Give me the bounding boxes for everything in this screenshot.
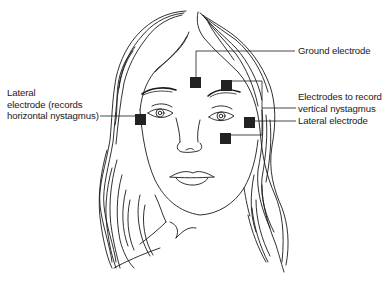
label-ground-electrode: Ground electrode	[298, 45, 371, 57]
label-vertical-line1: Electrodes to record	[298, 91, 382, 103]
hair-left-icon	[99, 11, 189, 268]
label-lateral-left-line1: Lateral	[7, 87, 99, 99]
label-vertical-electrodes: Electrodes to record vertical nystagmus	[298, 91, 382, 114]
electrode-ground-icon	[190, 77, 201, 88]
face-electrode-diagram	[0, 0, 385, 284]
electrode-lateral-right-icon	[244, 117, 255, 128]
label-lateral-left-line2: electrode (records	[7, 99, 99, 111]
label-lateral-electrode-left: Lateral electrode (records horizontal ny…	[7, 87, 99, 122]
nose-icon	[176, 118, 202, 152]
label-lateral-left-line3: horizontal nystagmus)	[7, 110, 99, 122]
label-lateral-electrode-right: Lateral electrode	[298, 115, 368, 127]
mouth-icon	[170, 172, 214, 186]
electrode-lateral-left-icon	[135, 114, 146, 125]
eye-right-icon	[209, 106, 234, 121]
eye-left-icon	[148, 104, 173, 118]
label-ground-text: Ground electrode	[298, 45, 371, 57]
face-outline-icon	[140, 110, 258, 244]
label-lateral-right-text: Lateral electrode	[298, 115, 368, 127]
electrode-vertical-upper-icon	[221, 80, 232, 91]
electrode-vertical-lower-icon	[220, 133, 231, 144]
label-vertical-line2: vertical nystagmus	[298, 103, 382, 115]
